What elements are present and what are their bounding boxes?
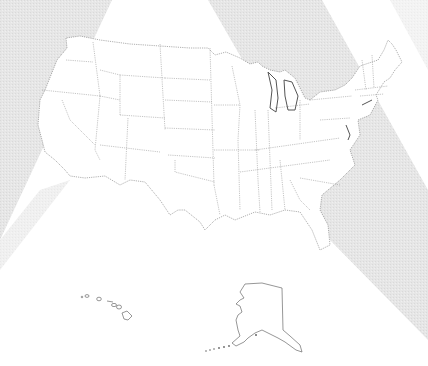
us-states-map: [0, 0, 428, 366]
map-canvas: [0, 0, 428, 366]
hawaii-inset: [81, 295, 132, 320]
alaska-inset: [205, 283, 302, 352]
contiguous-us: [38, 36, 402, 250]
